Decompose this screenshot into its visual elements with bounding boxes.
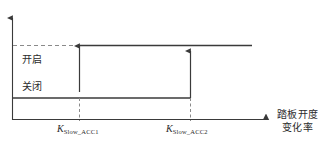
figure-canvas: 开启 关闭 KSlow_ACC1 KSlow_ACC2 踏板开度 变化率	[0, 0, 318, 147]
x-axis-label-line1: 踏板开度	[277, 110, 318, 121]
hysteresis-diagram-svg	[0, 0, 318, 147]
x-axis-label: 踏板开度 变化率	[277, 110, 318, 133]
state-label-open: 开启	[22, 55, 43, 66]
tick-symbol-acc1: K	[57, 123, 64, 134]
tick-subscript-acc2: Slow_ACC2	[173, 128, 208, 135]
tick-label-acc1: KSlow_ACC1	[57, 124, 99, 135]
x-axis-label-line2: 变化率	[277, 123, 318, 134]
tick-symbol-acc2: K	[166, 123, 173, 134]
state-label-close: 关闭	[22, 82, 43, 93]
tick-label-acc2: KSlow_ACC2	[166, 124, 208, 135]
tick-subscript-acc1: Slow_ACC1	[64, 128, 99, 135]
